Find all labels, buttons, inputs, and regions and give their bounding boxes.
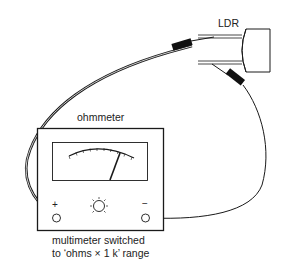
crocodile-clip-bottom bbox=[226, 68, 245, 85]
negative-terminal-label: − bbox=[142, 199, 148, 209]
ohmmeter-label: ohmmeter bbox=[77, 111, 124, 123]
positive-terminal bbox=[53, 214, 61, 222]
caption: multimeter switched to ‘ohms × 1 k’ rang… bbox=[52, 234, 149, 260]
ldr-label: LDR bbox=[218, 17, 239, 29]
diagram-canvas bbox=[0, 0, 285, 267]
ohmmeter bbox=[38, 129, 164, 231]
meter-window bbox=[53, 143, 148, 181]
caption-line-1: multimeter switched bbox=[52, 234, 149, 247]
ldr-component bbox=[198, 29, 270, 72]
negative-terminal bbox=[142, 214, 150, 222]
caption-line-2: to ‘ohms × 1 k’ range bbox=[52, 247, 149, 260]
wire-negative bbox=[151, 64, 266, 218]
ldr-body bbox=[242, 29, 270, 72]
positive-terminal-label: + bbox=[52, 200, 58, 210]
